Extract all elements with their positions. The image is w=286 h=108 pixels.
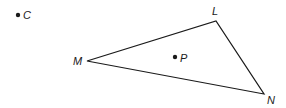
point-c-dot [16, 13, 20, 17]
geometry-diagram: C P M L N [0, 0, 286, 108]
vertex-l-label: L [212, 5, 218, 17]
point-p-dot [173, 55, 177, 59]
point-p-label: P [180, 52, 188, 64]
point-c-label: C [23, 9, 31, 21]
vertex-n-label: N [267, 94, 275, 106]
vertex-m-label: M [73, 55, 83, 67]
